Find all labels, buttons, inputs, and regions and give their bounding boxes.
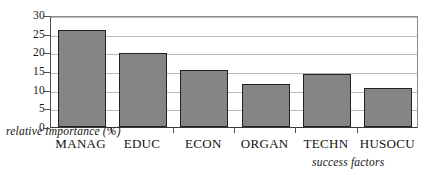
bar-chart-figure: 051015202530 MANAGEDUCECONORGANTECHNHUSO… [0,0,426,175]
x-axis-tick [357,128,358,133]
bar [364,88,412,127]
x-axis-tick [234,128,235,133]
bar [58,30,106,127]
x-axis-category-label: ORGAN [234,137,295,151]
x-axis-category-label: EDUC [111,137,172,151]
plot-area [50,16,418,128]
y-axis-tick-label: 30 [15,10,45,22]
y-axis-tick-label: 20 [15,47,45,59]
x-axis-tick [173,128,174,133]
y-axis-tick-label: 10 [15,85,45,97]
bar [303,74,351,127]
y-axis-tick-label: 5 [15,103,45,115]
y-axis-tick-label: 15 [15,66,45,78]
x-axis-category-label: HUSOCU [357,137,418,151]
x-axis-category-label: ECON [173,137,234,151]
y-axis-title: relative importance (%) [6,125,121,138]
bar-series [51,17,417,127]
x-axis-title: success factors [312,156,384,169]
bar [180,70,228,127]
x-axis-tick [295,128,296,133]
y-axis-tick-label: 25 [15,29,45,41]
bar [242,84,290,127]
x-axis-category-label: TECHN [295,137,356,151]
x-axis-category-label: MANAG [50,137,111,151]
bar [119,53,167,127]
